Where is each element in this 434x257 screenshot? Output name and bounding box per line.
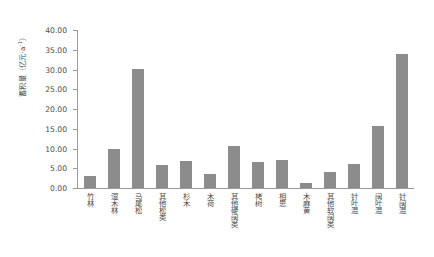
bar-slot bbox=[390, 30, 414, 188]
x-axis-category-label: 栲树 bbox=[254, 192, 262, 206]
bar-slot bbox=[246, 30, 270, 188]
x-axis-line bbox=[77, 188, 414, 189]
x-axis-label-slot: 针阔混 bbox=[390, 192, 414, 254]
bar-chart-figure: 蓄积量（亿元·a-1） 40.0035.0030.0025.0020.0015.… bbox=[0, 0, 434, 257]
bar bbox=[252, 162, 264, 188]
x-axis-label-slot: 木麻黄 bbox=[294, 192, 318, 254]
y-axis-tick: 35.00 bbox=[73, 50, 77, 51]
x-axis-label-slot: 杉木 bbox=[174, 192, 198, 254]
x-axis-label-slot: 竹林 bbox=[78, 192, 102, 254]
y-axis-tick: 0.00 bbox=[73, 188, 77, 189]
bar bbox=[132, 69, 144, 188]
y-axis-title-main: 蓄积量 bbox=[18, 75, 27, 97]
x-axis-category-label: 木麻黄 bbox=[302, 192, 310, 213]
y-axis-tick: 15.00 bbox=[73, 129, 77, 130]
bar-slot bbox=[102, 30, 126, 188]
x-axis-label-slot: 其他硬阔类 bbox=[222, 192, 246, 254]
y-axis-title-unit-close: ） bbox=[18, 34, 27, 41]
bar-slot bbox=[126, 30, 150, 188]
x-axis-category-label: 竹林 bbox=[86, 192, 94, 206]
y-axis-tick-label: 30.00 bbox=[45, 65, 67, 74]
bar-slot bbox=[270, 30, 294, 188]
bar bbox=[108, 149, 120, 189]
x-axis-category-label: 湿木林 bbox=[110, 192, 118, 213]
y-axis-tick-label: 0.00 bbox=[50, 184, 67, 193]
y-axis-tick: 40.00 bbox=[73, 30, 77, 31]
bar bbox=[396, 54, 408, 188]
bar bbox=[300, 183, 312, 188]
x-axis-label-slot: 木荷 bbox=[198, 192, 222, 254]
y-axis-title-unit: （亿元·a bbox=[18, 46, 27, 75]
bar-slot bbox=[150, 30, 174, 188]
bar bbox=[324, 172, 336, 188]
y-axis-tick-label: 35.00 bbox=[45, 45, 67, 54]
bar-slot bbox=[174, 30, 198, 188]
y-axis-tick-label: 10.00 bbox=[45, 144, 67, 153]
y-axis-tick: 30.00 bbox=[73, 70, 77, 71]
x-axis-category-label: 针阔混 bbox=[398, 192, 406, 213]
bar bbox=[156, 165, 168, 188]
x-axis-category-label: 其他软阔类 bbox=[326, 192, 334, 227]
bar-slot bbox=[318, 30, 342, 188]
x-axis-category-label: 杉木 bbox=[182, 192, 190, 206]
bar-series bbox=[78, 30, 414, 188]
x-axis-label-slot: 针叶混 bbox=[342, 192, 366, 254]
bar bbox=[372, 126, 384, 188]
x-axis-category-label: 针叶混 bbox=[350, 192, 358, 213]
x-axis-label-slot: 其他松类 bbox=[150, 192, 174, 254]
plot-area: 40.0035.0030.0025.0020.0015.0010.005.000… bbox=[77, 30, 414, 188]
y-axis-tick: 5.00 bbox=[73, 168, 77, 169]
y-axis-tick-label: 20.00 bbox=[45, 105, 67, 114]
bar bbox=[348, 164, 360, 188]
x-axis-category-labels: 竹林湿木林马尾松其他松类杉木木荷其他硬阔类栲树相思木麻黄其他软阔类针叶混阔叶混针… bbox=[78, 192, 414, 254]
x-axis-category-label: 其他松类 bbox=[158, 192, 166, 220]
x-axis-category-label: 马尾松 bbox=[134, 192, 142, 213]
y-axis-title: 蓄积量（亿元·a-1） bbox=[17, 5, 27, 125]
bar bbox=[276, 160, 288, 188]
y-axis-tick-label: 40.00 bbox=[45, 26, 67, 35]
y-axis-tick: 10.00 bbox=[73, 149, 77, 150]
bar-slot bbox=[198, 30, 222, 188]
x-axis-label-slot: 湿木林 bbox=[102, 192, 126, 254]
x-axis-label-slot: 马尾松 bbox=[126, 192, 150, 254]
bar bbox=[204, 174, 216, 188]
bar bbox=[228, 146, 240, 188]
bar-slot bbox=[222, 30, 246, 188]
y-axis-tick: 20.00 bbox=[73, 109, 77, 110]
y-axis-title-exponent: -1 bbox=[17, 41, 23, 47]
y-axis-tick-label: 5.00 bbox=[50, 164, 67, 173]
x-axis-category-label: 木荷 bbox=[206, 192, 214, 206]
y-axis-tick: 25.00 bbox=[73, 89, 77, 90]
bar bbox=[180, 161, 192, 188]
bar bbox=[84, 176, 96, 188]
x-axis-category-label: 相思 bbox=[278, 192, 286, 206]
x-axis-label-slot: 阔叶混 bbox=[366, 192, 390, 254]
y-axis-tick-label: 15.00 bbox=[45, 124, 67, 133]
x-axis-category-label: 阔叶混 bbox=[374, 192, 382, 213]
x-axis-label-slot: 相思 bbox=[270, 192, 294, 254]
x-axis-category-label: 其他硬阔类 bbox=[230, 192, 238, 227]
bar-slot bbox=[366, 30, 390, 188]
y-axis-tick-label: 25.00 bbox=[45, 85, 67, 94]
x-axis-label-slot: 其他软阔类 bbox=[318, 192, 342, 254]
x-axis-label-slot: 栲树 bbox=[246, 192, 270, 254]
bar-slot bbox=[294, 30, 318, 188]
bar-slot bbox=[342, 30, 366, 188]
bar-slot bbox=[78, 30, 102, 188]
